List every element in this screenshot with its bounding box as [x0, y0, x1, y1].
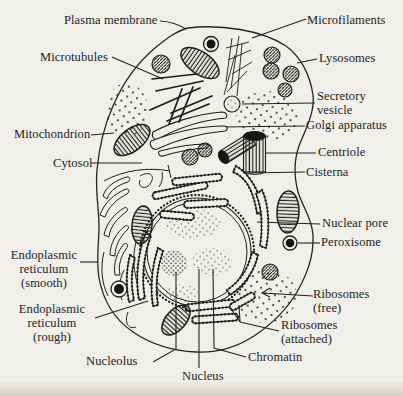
page-bottom-shadow [0, 380, 403, 396]
nucleolus [161, 250, 187, 276]
label-ribosomes-free: Ribosomes (free) [313, 287, 385, 315]
leader-plasma-membrane [160, 21, 186, 29]
centriole [216, 132, 265, 175]
label-nucleolus: Nucleolus [86, 354, 138, 368]
label-cisterna: Cisterna [306, 165, 348, 179]
cell-diagram-figure: Plasma membrane Microfilaments Microtubu… [0, 0, 403, 396]
label-microtubules: Microtubules [40, 50, 108, 64]
label-mitochondrion: Mitochondrion [14, 127, 90, 141]
label-ribosomes-attached: Ribosomes (attached) [281, 318, 361, 346]
label-plasma-membrane: Plasma membrane [64, 13, 158, 27]
label-nuclear-pore: Nuclear pore [322, 216, 388, 230]
label-centriole: Centriole [318, 145, 365, 159]
label-microfilaments: Microfilaments [307, 13, 385, 27]
label-er-smooth: Endoplasmic reticulum (smooth) [4, 248, 84, 290]
label-cytosol: Cytosol [53, 156, 93, 170]
leader-er-rough [95, 301, 148, 318]
label-chromatin: Chromatin [248, 350, 302, 364]
microfilaments [224, 36, 252, 96]
leader-microfilaments [252, 19, 306, 38]
label-er-rough: Endoplasmic reticulum (rough) [12, 302, 92, 344]
label-peroxisome: Peroxisome [321, 235, 381, 249]
secretory-vesicle [224, 96, 240, 112]
label-secretory-vesicle: Secretory vesicle [317, 89, 383, 117]
label-lysosomes: Lysosomes [319, 51, 375, 65]
label-golgi-apparatus: Golgi apparatus [306, 118, 387, 132]
